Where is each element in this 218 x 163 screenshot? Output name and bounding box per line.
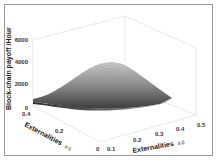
x-tick-0.1: 0.1 bbox=[107, 146, 116, 152]
z-axis-label: Block-chain payoff /Hour bbox=[5, 27, 13, 110]
payoff-surface bbox=[33, 62, 172, 111]
x-tick-0.2: 0.2 bbox=[133, 137, 142, 143]
z-tick-4000: 4000 bbox=[15, 59, 29, 65]
x-tick-0.5: 0.5 bbox=[197, 122, 206, 128]
z-tick-2000: 2000 bbox=[15, 81, 29, 87]
z-tick-6000: 6000 bbox=[15, 37, 29, 43]
y-tick-0.2: 0.2 bbox=[55, 128, 64, 134]
x-tick-0.3: 0.3 bbox=[155, 131, 164, 137]
surface-plot: 6000 4000 2000 0 Block-chain payoff /Hou… bbox=[0, 0, 218, 163]
y-axis-label: Externalities α ij bbox=[24, 121, 73, 152]
z-axis-ticks: 6000 4000 2000 0 bbox=[15, 37, 29, 111]
y-tick-0.4: 0.4 bbox=[22, 111, 31, 117]
y-tick-0: 0 bbox=[96, 146, 100, 152]
x-tick-0.4: 0.4 bbox=[176, 126, 185, 132]
